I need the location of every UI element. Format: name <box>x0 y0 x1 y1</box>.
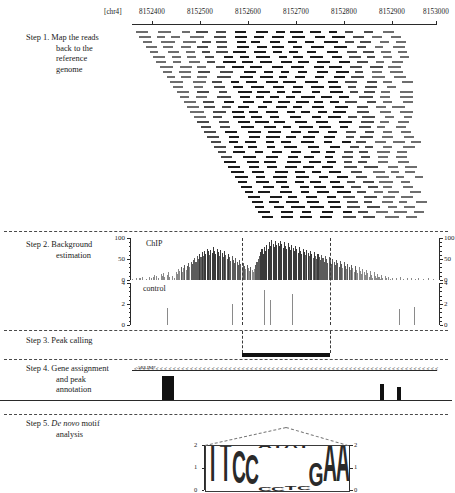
gene-strand-arrow-icon: < <box>396 367 399 373</box>
axis-minor-tick <box>129 238 131 239</box>
sequencing-read <box>288 156 298 158</box>
sequencing-read <box>197 91 210 93</box>
gene-strand-arrow-icon: < <box>203 367 206 373</box>
sequencing-read <box>204 131 216 133</box>
axis-minor-tick <box>440 276 442 277</box>
logo-column: A <box>323 450 336 491</box>
sequencing-read <box>312 106 324 108</box>
axis-minor-tick <box>440 312 442 313</box>
axis-minor-tick <box>129 242 131 243</box>
sequencing-read <box>213 111 225 113</box>
sequencing-read <box>167 76 175 78</box>
sequencing-read <box>309 161 321 163</box>
sequencing-read <box>286 201 299 203</box>
sequencing-read <box>394 76 405 78</box>
axis-tick-mark <box>392 21 393 25</box>
axis-minor-tick <box>129 263 131 264</box>
sequencing-read <box>400 91 413 93</box>
sequencing-read <box>304 156 314 158</box>
sequencing-read <box>231 81 239 83</box>
sequencing-read <box>158 31 171 33</box>
sequencing-read <box>153 56 165 58</box>
chip-signal-bar <box>158 278 159 280</box>
sequencing-read <box>216 41 227 43</box>
sequencing-read <box>217 96 231 98</box>
sequencing-read <box>347 206 360 208</box>
chip-signal-bar <box>156 276 157 280</box>
gene-strand-arrow-icon: < <box>431 367 434 373</box>
sequencing-read <box>251 86 265 88</box>
sequencing-read <box>242 61 252 63</box>
logo-column: G <box>310 450 323 491</box>
logo-letter: A <box>284 445 298 450</box>
sequencing-read <box>301 96 315 98</box>
sequencing-read <box>156 61 166 63</box>
sequencing-read <box>245 191 253 193</box>
sequencing-read <box>312 171 322 173</box>
logo-letter: T <box>272 445 284 450</box>
axis-minor-tick <box>440 251 442 252</box>
gene-strand-arrow-icon: < <box>186 367 189 373</box>
sequencing-read <box>264 71 273 73</box>
sequencing-read <box>249 111 258 113</box>
sequencing-read <box>314 186 326 188</box>
step-1-line1: Map the reads <box>51 33 98 42</box>
sequencing-read <box>350 146 359 148</box>
step-1-line2: back to the <box>26 44 136 55</box>
sequencing-read <box>198 71 209 73</box>
sequencing-read <box>391 36 402 38</box>
gene-strand-arrow-icon: < <box>414 367 417 373</box>
sequencing-read <box>363 181 374 183</box>
logo-letter: C <box>271 487 285 491</box>
sequencing-read <box>272 151 282 153</box>
sequencing-read <box>302 211 312 213</box>
logo-column: AT <box>284 445 297 491</box>
sequencing-read <box>355 71 364 73</box>
gene-strand-arrow-icon: < <box>246 367 249 373</box>
sequencing-read <box>347 181 356 183</box>
sequencing-read <box>356 176 367 178</box>
sequencing-read <box>163 46 173 48</box>
sequencing-read <box>308 131 320 133</box>
sequencing-read <box>150 51 158 53</box>
peak-region-guide <box>242 331 243 353</box>
sequencing-read <box>277 91 285 93</box>
sequencing-read <box>332 56 342 58</box>
sequencing-read <box>267 146 275 148</box>
sequencing-read <box>382 201 393 203</box>
sequencing-read <box>214 86 225 88</box>
axis-tick-mark <box>344 21 345 25</box>
gene-strand-arrow-icon: < <box>190 367 193 373</box>
sequencing-read <box>240 96 250 98</box>
sequencing-read <box>336 71 349 73</box>
motif-analysis-panel: TTCCTACATCATTCGAA 210210 <box>0 415 452 493</box>
sequencing-read <box>310 31 322 33</box>
axis-minor-tick <box>129 300 131 301</box>
axis-minor-tick <box>129 325 131 326</box>
sequencing-read <box>329 171 341 173</box>
control-signal-bar <box>399 309 400 325</box>
sequencing-read <box>357 46 366 48</box>
sequencing-read <box>324 141 332 143</box>
sequencing-read <box>398 51 407 53</box>
axis-minor-tick <box>440 283 442 284</box>
chip-signal-bar <box>415 279 416 280</box>
sequencing-read <box>362 116 375 118</box>
axis-minor-tick <box>440 259 442 260</box>
gene-strand-arrow-icon: < <box>302 367 305 373</box>
sequencing-read <box>255 151 263 153</box>
sequencing-read <box>256 31 269 33</box>
gene-strand-arrow-icon: < <box>366 367 369 373</box>
sequencing-read <box>377 151 391 153</box>
sequencing-read <box>378 161 388 163</box>
axis-tick-label: 8152700 <box>283 8 309 16</box>
axis-tick-label: 8152400 <box>139 8 165 16</box>
sequencing-read <box>342 156 353 158</box>
sequencing-read <box>168 51 179 53</box>
sequencing-read <box>220 126 230 128</box>
sequencing-read <box>351 171 362 173</box>
sequencing-read <box>357 106 369 108</box>
logo-letter: C <box>245 449 259 491</box>
sequencing-read <box>266 81 278 83</box>
sequencing-read <box>400 96 413 98</box>
